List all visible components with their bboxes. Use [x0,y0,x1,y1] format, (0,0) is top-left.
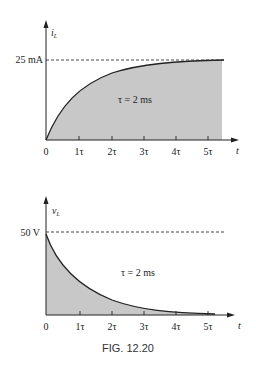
voltage-y-label: vL [52,205,60,217]
svg-text:5τ: 5τ [203,321,212,332]
current-annotation: τ = 2 ms [118,94,152,105]
figure-caption: FIG. 12.20 [102,342,154,354]
current-y-arrow-icon [44,20,49,28]
voltage-x-label: t [238,320,241,331]
svg-text:3τ: 3τ [139,321,148,332]
voltage-annotation: τ = 2 ms [121,267,155,278]
voltage-y-arrow-icon [44,196,49,204]
current-tick-labels: 0 1τ 2τ 3τ 4τ 5τ [44,146,213,157]
current-marker-label: 25 mA [16,54,44,65]
current-x-arrow-icon [231,138,239,143]
svg-text:4τ: 4τ [171,146,180,157]
svg-text:0: 0 [44,321,49,332]
svg-text:1τ: 1τ [74,146,83,157]
chart-current: iL 25 mA τ = 2 ms 0 1τ 2τ 3τ 4τ 5τ t [16,20,240,157]
svg-text:4τ: 4τ [171,321,180,332]
svg-text:3τ: 3τ [139,146,148,157]
svg-text:2τ: 2τ [107,146,116,157]
voltage-x-arrow-icon [227,313,235,318]
current-y-label: iL [51,27,58,39]
svg-text:1τ: 1τ [75,321,84,332]
svg-text:2τ: 2τ [107,321,116,332]
chart-voltage: vL 50 V τ = 2 ms 0 1τ 2τ 3τ 4τ 5τ t [20,196,241,332]
figure-canvas: iL 25 mA τ = 2 ms 0 1τ 2τ 3τ 4τ 5τ t vL … [0,0,256,365]
svg-text:5τ: 5τ [203,146,212,157]
svg-text:0: 0 [44,146,49,157]
voltage-marker-label: 50 V [20,227,40,238]
voltage-tick-labels: 0 1τ 2τ 3τ 4τ 5τ [44,321,213,332]
current-x-label: t [236,145,239,156]
